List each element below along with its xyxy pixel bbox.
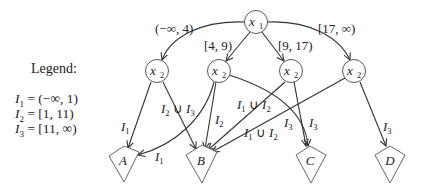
svg-text:D: D [384,153,395,168]
svg-text:x: x [346,63,353,78]
leaf-C: C [296,146,326,183]
label-c3-B: I1 ∪ I2 [236,97,271,114]
svg-text:x: x [248,14,255,29]
leaf-A: A [109,146,139,182]
decision-diagram: x 1 x 2 x 2 x 2 x 2 A B C D (−∞, 4) [4, … [0,0,422,191]
child-node-3: x 2 [280,60,303,83]
svg-text:2: 2 [160,70,164,80]
child-node-2: x 2 [208,60,231,83]
label-c4-D: I3 [382,119,392,136]
label-c2-C: I3 [283,115,293,132]
svg-text:2: 2 [222,70,226,80]
leaf-D: D [375,146,405,183]
edge-c2-A [138,82,214,155]
edge-c1-A [128,82,151,148]
svg-text:1: 1 [259,21,263,31]
leaf-B: B [186,145,217,183]
label-root-c2: [4, 9) [204,38,232,53]
edge-c4-B [212,78,345,152]
child-node-1: x 2 [146,60,169,83]
svg-text:x: x [149,63,156,78]
label-root-c3: [9, 17) [278,38,313,53]
label-root-c1: (−∞, 4) [155,21,193,36]
label-c3-C: I3 [308,115,318,132]
svg-text:C: C [306,153,315,168]
svg-text:B: B [197,153,205,168]
root-node: x 1 [245,11,268,34]
child-node-4: x 2 [343,60,366,83]
svg-text:A: A [118,153,127,168]
svg-text:2: 2 [357,70,361,80]
label-root-c4: [17, ∞) [318,21,355,36]
edge-c4-D [360,82,386,146]
svg-text:2: 2 [294,70,298,80]
label-c2-A: I1 [154,149,164,166]
svg-text:x: x [211,63,218,78]
label-c1-B: I2 ∪ I3 [160,101,195,118]
label-c1-A: I1 [120,119,130,136]
label-c4-B: I1 ∪ I2 [243,125,278,142]
svg-text:x: x [283,63,290,78]
label-c2-B: I2 [214,112,224,129]
